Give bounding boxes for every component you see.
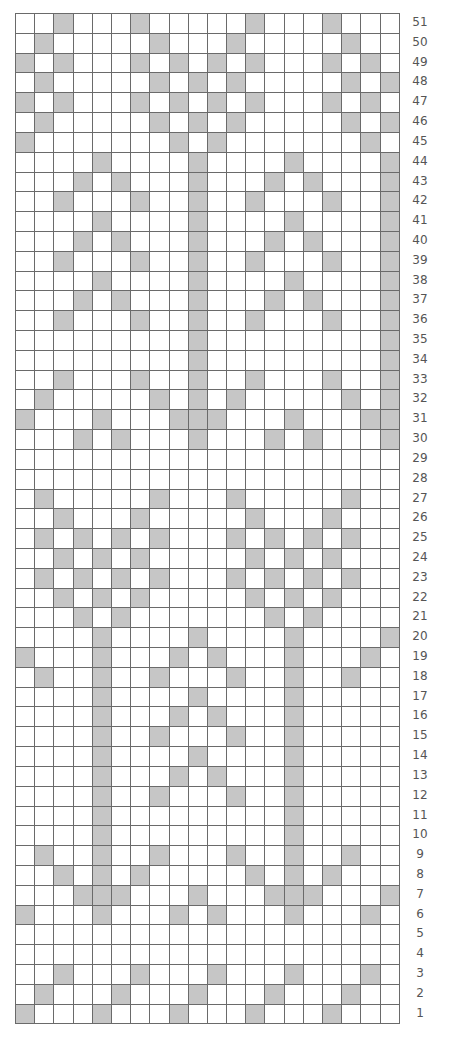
empty-cell	[361, 192, 380, 212]
empty-cell	[285, 450, 304, 470]
empty-cell	[265, 272, 284, 292]
filled-cell	[342, 668, 361, 688]
empty-cell	[112, 945, 131, 965]
empty-cell	[189, 906, 208, 926]
empty-cell	[112, 113, 131, 133]
empty-cell	[74, 252, 93, 272]
filled-cell	[323, 549, 342, 569]
empty-cell	[74, 351, 93, 371]
empty-cell	[208, 727, 227, 747]
empty-cell	[361, 113, 380, 133]
empty-cell	[246, 965, 265, 985]
empty-cell	[131, 450, 150, 470]
filled-cell	[285, 965, 304, 985]
empty-cell	[54, 668, 73, 688]
empty-cell	[246, 529, 265, 549]
empty-cell	[16, 668, 35, 688]
empty-cell	[93, 470, 112, 490]
empty-cell	[54, 648, 73, 668]
empty-cell	[246, 390, 265, 410]
empty-cell	[304, 787, 323, 807]
empty-cell	[361, 390, 380, 410]
empty-cell	[150, 410, 169, 430]
empty-cell	[342, 628, 361, 648]
empty-cell	[246, 807, 265, 827]
empty-cell	[227, 589, 246, 609]
empty-cell	[361, 767, 380, 787]
filled-cell	[93, 212, 112, 232]
filled-cell	[265, 608, 284, 628]
empty-cell	[285, 390, 304, 410]
empty-cell	[342, 252, 361, 272]
empty-cell	[381, 648, 400, 668]
empty-cell	[342, 351, 361, 371]
filled-cell	[35, 34, 54, 54]
filled-cell	[189, 252, 208, 272]
empty-cell	[170, 727, 189, 747]
empty-cell	[35, 767, 54, 787]
empty-cell	[16, 73, 35, 93]
empty-cell	[304, 153, 323, 173]
filled-cell	[170, 1005, 189, 1025]
empty-cell	[74, 826, 93, 846]
empty-cell	[16, 608, 35, 628]
filled-cell	[304, 232, 323, 252]
empty-cell	[16, 787, 35, 807]
empty-cell	[74, 668, 93, 688]
filled-cell	[381, 153, 400, 173]
empty-cell	[54, 351, 73, 371]
empty-cell	[323, 727, 342, 747]
empty-cell	[189, 965, 208, 985]
filled-cell	[35, 668, 54, 688]
empty-cell	[150, 549, 169, 569]
empty-cell	[381, 767, 400, 787]
empty-cell	[323, 965, 342, 985]
empty-cell	[361, 14, 380, 34]
empty-cell	[265, 390, 284, 410]
empty-cell	[265, 14, 284, 34]
empty-cell	[208, 866, 227, 886]
empty-cell	[342, 331, 361, 351]
empty-cell	[54, 608, 73, 628]
empty-cell	[323, 906, 342, 926]
empty-cell	[227, 430, 246, 450]
empty-cell	[35, 351, 54, 371]
row-label: 21	[400, 607, 440, 627]
filled-cell	[54, 965, 73, 985]
empty-cell	[246, 906, 265, 926]
filled-cell	[93, 1005, 112, 1025]
row-label: 41	[400, 211, 440, 231]
empty-cell	[54, 569, 73, 589]
filled-cell	[189, 153, 208, 173]
empty-cell	[381, 925, 400, 945]
empty-cell	[16, 390, 35, 410]
empty-cell	[54, 1005, 73, 1025]
filled-cell	[285, 807, 304, 827]
empty-cell	[54, 925, 73, 945]
filled-cell	[189, 212, 208, 232]
empty-cell	[131, 826, 150, 846]
filled-cell	[54, 311, 73, 331]
empty-cell	[381, 450, 400, 470]
empty-cell	[265, 906, 284, 926]
empty-cell	[35, 866, 54, 886]
empty-cell	[285, 34, 304, 54]
empty-cell	[150, 291, 169, 311]
empty-cell	[285, 73, 304, 93]
empty-cell	[246, 985, 265, 1005]
filled-cell	[285, 153, 304, 173]
empty-cell	[227, 707, 246, 727]
empty-cell	[112, 390, 131, 410]
empty-cell	[150, 14, 169, 34]
row-label: 38	[400, 271, 440, 291]
empty-cell	[265, 470, 284, 490]
empty-cell	[131, 925, 150, 945]
empty-cell	[208, 450, 227, 470]
filled-cell	[35, 73, 54, 93]
empty-cell	[74, 965, 93, 985]
empty-cell	[189, 34, 208, 54]
row-label: 12	[400, 786, 440, 806]
filled-cell	[54, 866, 73, 886]
empty-cell	[170, 173, 189, 193]
empty-cell	[131, 886, 150, 906]
